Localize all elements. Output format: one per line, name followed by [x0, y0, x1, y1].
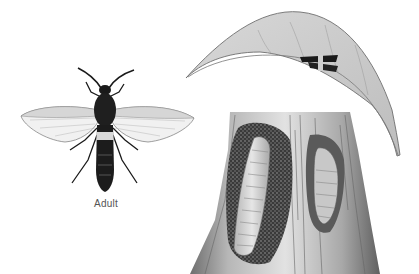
illustration-canvas: Adult	[0, 0, 419, 274]
abdomen-band	[97, 132, 114, 140]
adult-moth	[21, 68, 194, 192]
illustration-svg	[0, 0, 419, 274]
adult-caption: Adult	[86, 198, 126, 209]
tree-trunk	[190, 112, 380, 274]
